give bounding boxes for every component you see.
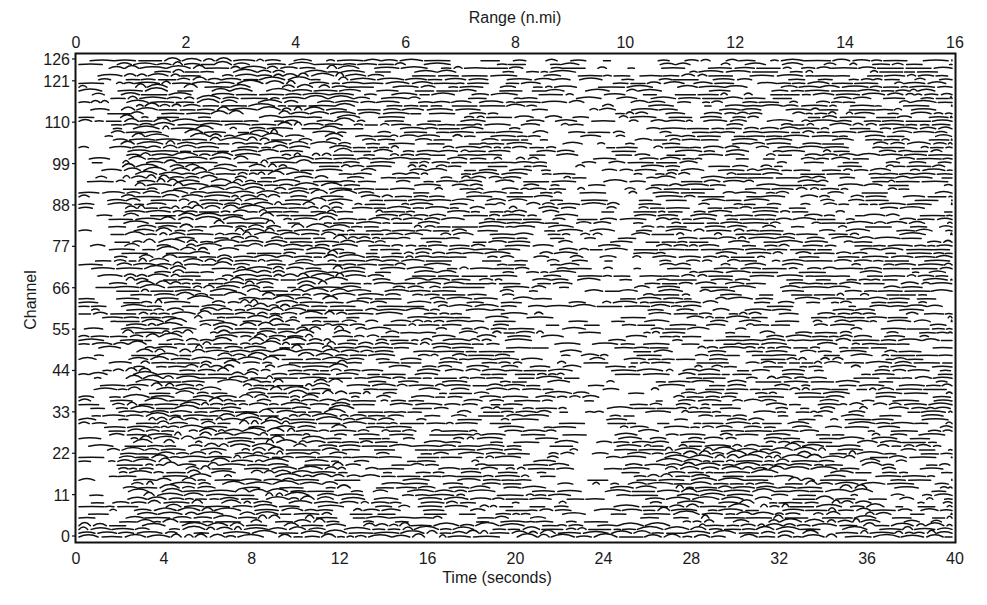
y-tick-label: 55 bbox=[52, 321, 70, 338]
y-axis-title: Channel bbox=[22, 270, 39, 330]
top-tick-label: 0 bbox=[72, 34, 81, 51]
x-tick-label: 16 bbox=[419, 550, 437, 567]
top-axis-title: Range (n.mi) bbox=[469, 9, 561, 26]
x-axis-ticks: 0481216202428323640 bbox=[72, 550, 964, 567]
x-tick-label: 32 bbox=[770, 550, 788, 567]
y-tick-label: 121 bbox=[43, 73, 70, 90]
seismic-chart: 0246810121416 0481216202428323640 011223… bbox=[0, 0, 987, 605]
x-tick-label: 40 bbox=[946, 550, 964, 567]
x-tick-label: 24 bbox=[595, 550, 613, 567]
y-tick-label: 88 bbox=[52, 197, 70, 214]
top-tick-label: 10 bbox=[616, 34, 634, 51]
top-tick-label: 12 bbox=[726, 34, 744, 51]
y-tick-label: 110 bbox=[44, 114, 70, 131]
x-tick-label: 20 bbox=[507, 550, 525, 567]
y-tick-label: 0 bbox=[61, 528, 70, 545]
x-tick-label: 8 bbox=[247, 550, 256, 567]
y-tick-label: 99 bbox=[52, 156, 70, 173]
y-tick-label: 44 bbox=[52, 362, 70, 379]
x-tick-label: 28 bbox=[682, 550, 700, 567]
top-tick-label: 14 bbox=[836, 34, 854, 51]
y-axis-ticks: 0112233445566778899110121126 bbox=[43, 51, 76, 545]
top-tick-label: 8 bbox=[511, 34, 520, 51]
x-tick-label: 0 bbox=[72, 550, 81, 567]
top-tick-label: 16 bbox=[946, 34, 964, 51]
top-axis-ticks: 0246810121416 bbox=[72, 34, 964, 51]
top-tick-label: 6 bbox=[401, 34, 410, 51]
x-tick-label: 4 bbox=[159, 550, 168, 567]
y-tick-label: 66 bbox=[52, 280, 70, 297]
x-tick-label: 12 bbox=[331, 550, 349, 567]
y-tick-label: 22 bbox=[52, 445, 70, 462]
y-tick-label: 77 bbox=[52, 238, 70, 255]
x-tick-label: 36 bbox=[858, 550, 876, 567]
top-tick-label: 4 bbox=[291, 34, 300, 51]
x-axis-title: Time (seconds) bbox=[442, 569, 552, 586]
y-tick-label: 126 bbox=[43, 51, 70, 68]
y-tick-label: 33 bbox=[52, 404, 70, 421]
wiggle-traces bbox=[79, 58, 952, 537]
top-tick-label: 2 bbox=[181, 34, 190, 51]
trace-lines bbox=[79, 58, 952, 537]
y-tick-label: 11 bbox=[53, 487, 70, 504]
